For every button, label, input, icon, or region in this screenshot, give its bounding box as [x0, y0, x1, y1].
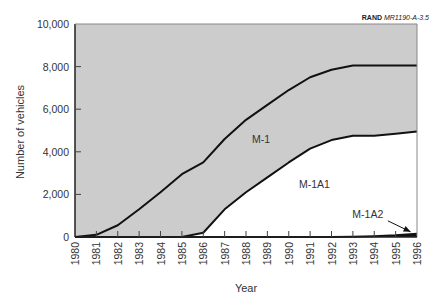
- y-tick-label: 2,000: [43, 188, 69, 200]
- x-axis-title: Year: [235, 282, 258, 294]
- x-tick-label: 1981: [90, 242, 102, 266]
- x-tick-label: 1993: [347, 242, 359, 266]
- x-tick-label: 1987: [219, 242, 231, 266]
- stacked-area-chart: 02,0004,0006,0008,00010,000 198019811982…: [0, 0, 437, 305]
- plot-area: [75, 24, 417, 237]
- x-tick-label: 1989: [261, 242, 273, 266]
- x-tick-label: 1980: [69, 242, 81, 266]
- source-credit: RAND MR1190-A-3.5: [362, 14, 429, 21]
- y-tick-label: 10,000: [37, 18, 69, 30]
- x-tick-label: 1992: [326, 242, 338, 266]
- series-label-m-1a2: M-1A2: [352, 208, 383, 220]
- y-tick-label: 0: [63, 231, 69, 243]
- x-tick-label: 1991: [304, 242, 316, 266]
- y-tick-label: 8,000: [43, 61, 69, 73]
- y-tick-label: 6,000: [43, 103, 69, 115]
- series-label-m-1: M-1: [252, 133, 270, 145]
- source-org: RAND: [362, 14, 382, 21]
- x-tick-label: 1986: [197, 242, 209, 266]
- source-id: MR1190-A-3.5: [384, 14, 429, 21]
- x-tick-label: 1994: [368, 242, 380, 266]
- y-axis-title: Number of vehicles: [14, 84, 26, 179]
- x-tick-label: 1985: [176, 242, 188, 266]
- x-tick-label: 1984: [155, 242, 167, 266]
- x-tick-label: 1988: [240, 242, 252, 266]
- x-tick-label: 1995: [390, 242, 402, 266]
- series-label-m-1a1: M-1A1: [299, 178, 330, 190]
- x-tick-label: 1990: [283, 242, 295, 266]
- x-tick-label: 1996: [411, 242, 423, 266]
- y-tick-label: 4,000: [43, 146, 69, 158]
- x-tick-label: 1982: [112, 242, 124, 266]
- x-tick-label: 1983: [133, 242, 145, 266]
